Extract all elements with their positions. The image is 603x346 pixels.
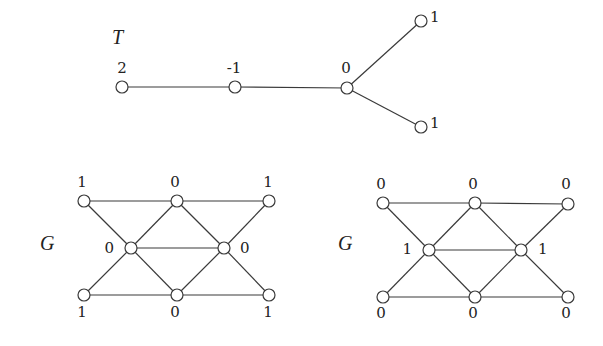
graph0-edge-b-e (177, 201, 224, 248)
diagram-canvas: T 2-1011 G 10100101 G 00011000 (0, 0, 603, 346)
graph1-edge-e-g (475, 250, 521, 297)
graph0-node-label-c: 1 (263, 173, 273, 191)
graph1-node-label-a: 0 (376, 175, 386, 193)
graph0-edge-b-d (131, 201, 177, 248)
tree-edge-t2-t4 (347, 88, 421, 127)
tree-node-label-t3: 1 (430, 8, 440, 26)
graph1-node-h (562, 291, 574, 303)
graph0-node-g (171, 289, 183, 301)
tree-node-t3 (415, 15, 427, 27)
tree-t: T 2-1011 (112, 8, 440, 133)
graph1-node-d (423, 244, 435, 256)
graph1-edge-b-e (475, 203, 521, 250)
tree-node-t4 (415, 121, 427, 133)
graph0-node-b (171, 195, 183, 207)
tree-node-t1 (229, 81, 241, 93)
tree-edge-t2-t3 (347, 21, 421, 88)
tree-node-label-t1: -1 (227, 59, 242, 77)
graph0-node-label-d: 0 (104, 239, 114, 257)
graph1-node-f (377, 291, 389, 303)
graph0-node-a (78, 195, 90, 207)
graph0-node-label-b: 0 (170, 173, 180, 191)
graph0-node-c (263, 195, 275, 207)
graph0-node-label-e: 0 (240, 239, 250, 257)
tree-node-label-t0: 2 (117, 59, 127, 77)
graph0-node-label-g: 0 (170, 303, 180, 321)
tree-node-t0 (116, 81, 128, 93)
graph-title: G (40, 232, 55, 254)
tree-node-t2 (341, 82, 353, 94)
graph1-node-b (469, 197, 481, 209)
graph0-node-h (263, 289, 275, 301)
graph0-node-f (78, 289, 90, 301)
graph1-node-e (515, 244, 527, 256)
tree-node-label-t2: 0 (341, 59, 351, 77)
graph-g-right: G 00011000 (338, 175, 574, 322)
graph1-node-label-c: 0 (561, 175, 571, 193)
graph1-node-label-e: 1 (538, 240, 548, 258)
graph-g-left: G 10100101 (40, 173, 275, 321)
graph0-node-label-a: 1 (77, 173, 87, 191)
graph1-node-label-b: 0 (468, 175, 478, 193)
graph0-node-e (218, 242, 230, 254)
graph1-node-label-h: 0 (561, 304, 571, 322)
graph1-node-label-g: 0 (468, 304, 478, 322)
tree-edge-t1-t2 (235, 87, 347, 88)
graph1-edge-b-c (475, 203, 568, 204)
graph-title: G (338, 232, 353, 254)
tree-labels: 2-1011 (117, 8, 439, 132)
graph1-node-g (469, 291, 481, 303)
tree-node-label-t4: 1 (430, 114, 440, 132)
graph1-node-c (562, 198, 574, 210)
graph1-edge-d-g (429, 250, 475, 297)
graph1-node-a (377, 197, 389, 209)
tree-title: T (112, 26, 125, 48)
graph0-node-label-f: 1 (77, 303, 87, 321)
tree-edges (122, 21, 421, 127)
graph0-node-d (125, 242, 137, 254)
graph0-edge-d-g (131, 248, 177, 295)
graph0-node-label-h: 1 (263, 303, 273, 321)
graph1-node-label-f: 0 (376, 304, 386, 322)
graph1-node-label-d: 1 (402, 240, 412, 258)
graph0-edge-e-g (177, 248, 224, 295)
graph1-edge-b-d (429, 203, 475, 250)
tree-nodes (116, 15, 427, 133)
